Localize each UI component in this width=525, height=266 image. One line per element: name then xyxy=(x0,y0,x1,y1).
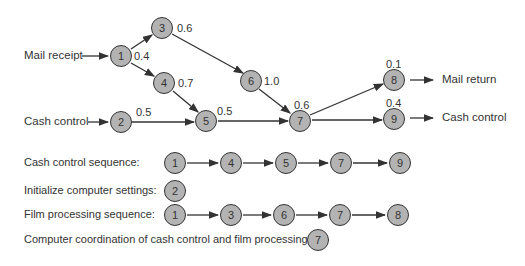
node-3: 3 xyxy=(151,17,173,39)
seq3-node: 1 xyxy=(164,204,186,226)
weight-node-3: 0.6 xyxy=(177,22,192,34)
node-8: 8 xyxy=(383,69,405,91)
edges-layer xyxy=(0,0,525,266)
weight-node-4: 0.7 xyxy=(178,77,193,89)
weight-node-5: 0.5 xyxy=(217,105,232,117)
node-2: 2 xyxy=(110,111,132,133)
input-label-cash-control: Cash control xyxy=(24,115,89,127)
weight-node-8: 0.1 xyxy=(386,58,401,70)
node-4: 4 xyxy=(153,72,175,94)
seq1-node: 5 xyxy=(275,152,297,174)
node-1: 1 xyxy=(110,45,132,67)
sequence-label-initialize: Initialize computer settings: xyxy=(24,184,157,196)
seq1-node: 4 xyxy=(220,152,242,174)
node-9: 9 xyxy=(383,108,405,130)
output-label-mail-return: Mail return xyxy=(442,73,496,85)
seq3-node: 3 xyxy=(220,204,242,226)
seq3-node: 7 xyxy=(329,204,351,226)
seq1-node: 7 xyxy=(330,152,352,174)
seq1-node: 1 xyxy=(164,152,186,174)
seq3-node: 8 xyxy=(387,204,409,226)
seq3-node: 6 xyxy=(273,204,295,226)
output-label-cash-control: Cash control xyxy=(442,111,507,123)
weight-node-2: 0.5 xyxy=(136,106,151,118)
sequence-label-coordination: Computer coordination of cash control an… xyxy=(24,233,311,245)
weight-node-7: 0.6 xyxy=(294,99,309,111)
sequence-label-cash-control: Cash control sequence: xyxy=(24,156,140,168)
node-5: 5 xyxy=(195,110,217,132)
seq4-node: 7 xyxy=(307,229,329,251)
seq2-node: 2 xyxy=(164,180,186,202)
input-label-mail-receipt: Mail receipt xyxy=(24,49,83,61)
weight-node-9: 0.4 xyxy=(386,97,401,109)
weight-node-6: 1.0 xyxy=(264,75,279,87)
weight-node-1: 0.4 xyxy=(134,50,149,62)
node-7: 7 xyxy=(289,110,311,132)
node-6: 6 xyxy=(240,70,262,92)
seq1-node: 9 xyxy=(389,152,411,174)
sequence-label-film-processing: Film processing sequence: xyxy=(24,208,155,220)
